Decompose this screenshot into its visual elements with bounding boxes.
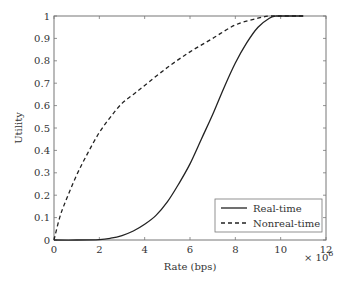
x-tick-label: 4 — [141, 244, 147, 255]
x-tick-label: 0 — [51, 244, 57, 255]
x-multiplier: × 106 — [304, 249, 333, 263]
y-tick-label: 0.9 — [34, 33, 50, 44]
y-tick-label: 0.3 — [34, 167, 50, 178]
x-tick-label: 10 — [274, 244, 287, 255]
y-tick-label: 0.5 — [34, 123, 50, 134]
y-tick-label: 0.4 — [34, 145, 50, 156]
legend-label-real-time: Real-time — [253, 203, 302, 214]
utility-chart: 00.10.20.30.40.50.60.70.80.91 024681012 … — [0, 0, 347, 286]
y-tick-label: 0.2 — [34, 190, 50, 201]
x-axis-label: Rate (bps) — [164, 261, 217, 272]
y-tick-label: 0.6 — [34, 100, 50, 111]
x-tick-label: 6 — [187, 244, 193, 255]
y-tick-label: 1 — [44, 11, 50, 22]
x-tick-label: 8 — [232, 244, 238, 255]
y-tick-label: 0.7 — [34, 78, 50, 89]
y-axis-label: Utility — [13, 112, 24, 144]
y-tick-label: 0.1 — [34, 212, 50, 223]
y-tick-label: 0 — [44, 235, 50, 246]
legend: Real-time Nonreal-time — [215, 199, 322, 232]
legend-label-nonreal-time: Nonreal-time — [253, 218, 320, 229]
x-tick-label: 2 — [96, 244, 102, 255]
y-tick-label: 0.8 — [34, 55, 50, 66]
